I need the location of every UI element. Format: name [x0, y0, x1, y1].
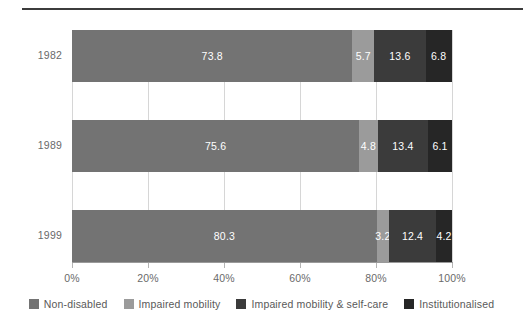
- bar-segment[interactable]: 75.6: [72, 120, 359, 172]
- bar-segment[interactable]: 12.4: [389, 210, 436, 262]
- header-divider-rule: [22, 8, 523, 10]
- legend-swatch-icon: [236, 299, 246, 309]
- bar-segment[interactable]: 13.6: [374, 30, 426, 82]
- bar-segment[interactable]: 6.8: [426, 30, 452, 82]
- plot-area: 73.85.713.66.875.64.813.46.180.33.212.44…: [72, 30, 452, 262]
- bar-value-label: 5.7: [356, 50, 371, 62]
- legend-item[interactable]: Impaired mobility: [124, 298, 221, 310]
- bar-segment[interactable]: 4.8: [359, 120, 377, 172]
- gridline-100: [452, 30, 453, 262]
- bar-value-label: 6.1: [432, 140, 447, 152]
- x-tick-mark: [376, 263, 377, 268]
- bar-value-label: 75.6: [205, 140, 226, 152]
- bar-value-label: 4.8: [361, 140, 376, 152]
- x-tick-mark: [72, 263, 73, 268]
- bar-value-label: 4.2: [436, 230, 451, 242]
- x-tick-label: 40%: [213, 272, 235, 284]
- legend-label: Impaired mobility & self-care: [251, 298, 388, 310]
- bar-segment[interactable]: 13.4: [378, 120, 429, 172]
- bar-value-label: 80.3: [214, 230, 235, 242]
- y-tick-label: 1999: [38, 229, 62, 241]
- bar-value-label: 6.8: [431, 50, 446, 62]
- legend-label: Impaired mobility: [139, 298, 221, 310]
- legend-item[interactable]: Institutionalised: [404, 298, 494, 310]
- y-tick-label: 1982: [38, 49, 62, 61]
- x-tick-label: 20%: [137, 272, 159, 284]
- legend-label: Institutionalised: [419, 298, 494, 310]
- bar-value-label: 73.8: [202, 50, 223, 62]
- bar-row: 75.64.813.46.1: [72, 120, 452, 172]
- x-tick-mark: [452, 263, 453, 268]
- legend-item[interactable]: Impaired mobility & self-care: [236, 298, 388, 310]
- legend-item[interactable]: Non-disabled: [29, 298, 108, 310]
- chart-legend: Non-disabledImpaired mobilityImpaired mo…: [0, 298, 523, 310]
- legend-label: Non-disabled: [44, 298, 108, 310]
- x-tick-label: 60%: [289, 272, 311, 284]
- bar-segment[interactable]: 4.2: [436, 210, 452, 262]
- bar-row: 73.85.713.66.8: [72, 30, 452, 82]
- legend-swatch-icon: [124, 299, 134, 309]
- legend-swatch-icon: [29, 299, 39, 309]
- x-axis-line: [72, 262, 453, 263]
- x-tick-mark: [300, 263, 301, 268]
- bar-segment[interactable]: 6.1: [428, 120, 451, 172]
- bar-segment[interactable]: 73.8: [72, 30, 352, 82]
- y-axis-labels: 198219891999: [0, 30, 62, 262]
- x-tick-label: 0%: [64, 272, 80, 284]
- x-tick-label: 80%: [365, 272, 387, 284]
- bar-segment[interactable]: 5.7: [352, 30, 374, 82]
- y-tick-label: 1989: [38, 139, 62, 151]
- bar-segment[interactable]: 80.3: [72, 210, 377, 262]
- x-tick-mark: [224, 263, 225, 268]
- stacked-bar-chart: 198219891999 73.85.713.66.875.64.813.46.…: [0, 26, 523, 276]
- legend-swatch-icon: [404, 299, 414, 309]
- bar-value-label: 13.6: [389, 50, 410, 62]
- bar-row: 80.33.212.44.2: [72, 210, 452, 262]
- x-tick-mark: [148, 263, 149, 268]
- bar-value-label: 12.4: [402, 230, 423, 242]
- bar-segment[interactable]: 3.2: [377, 210, 389, 262]
- x-tick-label: 100%: [438, 272, 466, 284]
- bar-value-label: 13.4: [392, 140, 413, 152]
